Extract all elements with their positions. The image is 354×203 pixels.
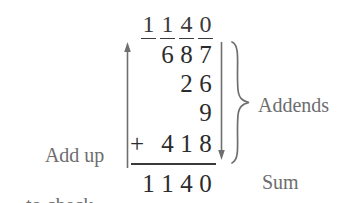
sum-digit: 4: [177, 171, 196, 196]
sum-digit: 1: [139, 171, 158, 196]
carry-digit: 1: [139, 12, 158, 38]
curly-brace-icon: [228, 40, 254, 165]
addend-digit: 9: [196, 100, 215, 125]
add-up-line-1: Add up: [45, 144, 104, 166]
addend-digit: 7: [196, 42, 215, 67]
addend-row: 4 1 8: [129, 131, 215, 156]
addition-diagram: 1 1 4 0 6 8 7 2 6 9 + 4 1 8 1 1 4 0: [0, 0, 354, 203]
addend-digit: 8: [177, 42, 196, 67]
addend-digit: 4: [158, 131, 177, 156]
sum-label: Sum: [262, 170, 299, 195]
sum-rule: [131, 163, 216, 165]
addend-digit: 1: [177, 131, 196, 156]
add-up-to-check-label: Add up to check.: [26, 118, 104, 203]
addend-row: 9: [129, 100, 215, 125]
carry-row: 1 1 4 0: [129, 12, 215, 38]
addend-row: 6 8 7: [129, 42, 215, 67]
addend-row: 2 6: [129, 71, 215, 96]
arrow-up-icon: [122, 42, 133, 170]
addend-digit: 6: [196, 71, 215, 96]
addends-label: Addends: [258, 93, 329, 118]
sum-row: 1 1 4 0: [129, 171, 215, 196]
carry-digit: 4: [177, 12, 196, 38]
arrow-down-icon: [216, 42, 227, 160]
carry-digit: 0: [196, 12, 215, 38]
addend-digit: 6: [158, 42, 177, 67]
add-up-line-2: to check.: [26, 193, 104, 203]
sum-digit: 1: [158, 171, 177, 196]
addend-digit: 2: [177, 71, 196, 96]
carry-digit: 1: [158, 12, 177, 38]
addend-digit: 8: [196, 131, 215, 156]
sum-digit: 0: [196, 171, 215, 196]
